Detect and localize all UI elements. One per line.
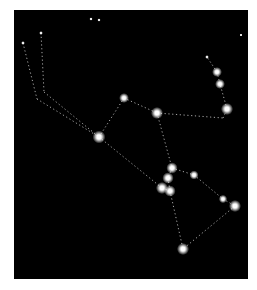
star [122, 96, 126, 100]
constellation-diagram [0, 0, 257, 290]
star [155, 111, 159, 115]
constellation-line [99, 98, 124, 137]
star [225, 107, 229, 111]
star [90, 18, 91, 19]
constellation-line [99, 137, 162, 188]
star [97, 135, 102, 140]
constellation-line [41, 33, 44, 92]
star [218, 82, 222, 86]
star [221, 197, 224, 200]
star [98, 19, 99, 20]
constellation-line [23, 43, 37, 99]
constellation-line [44, 92, 99, 137]
constellation-line [183, 206, 235, 249]
constellation-line [194, 175, 223, 199]
star [206, 56, 207, 57]
star [40, 32, 41, 33]
constellation-lines [23, 33, 235, 249]
star [160, 186, 164, 190]
constellation-line [157, 113, 172, 168]
constellation-stars [21, 17, 242, 255]
constellation-line [157, 113, 223, 118]
star [233, 204, 237, 208]
constellation-line [170, 191, 183, 249]
star [240, 34, 241, 35]
star [192, 173, 195, 176]
star [166, 176, 170, 180]
constellation-line [37, 99, 99, 137]
star [181, 247, 185, 251]
star [170, 166, 174, 170]
star [22, 42, 23, 43]
star [215, 70, 219, 74]
star [168, 189, 172, 193]
